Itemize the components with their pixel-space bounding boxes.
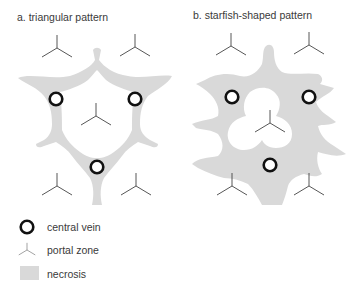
portal-zone-icon: [42, 173, 72, 195]
legend-necrosis-swatch: [20, 266, 39, 280]
central-vein-icon: [91, 161, 104, 174]
central-vein-icon: [50, 93, 63, 106]
portal-zone-icon: [42, 35, 72, 57]
portal-zone-icon: [120, 34, 150, 56]
legend-label-central-vein: central vein: [47, 221, 101, 233]
portal-zone-icon: [294, 173, 324, 195]
central-vein-icon: [264, 159, 277, 172]
portal-zone-icon: [294, 32, 324, 54]
portal-zone-icon: [121, 173, 151, 195]
panel-b-necrosis: [192, 45, 346, 205]
portal-zone-icon: [81, 103, 111, 125]
legend-portal-zone-icon: [19, 243, 36, 255]
legend-label-portal-zone: portal zone: [47, 244, 99, 256]
panel-a-necrosis: [18, 48, 172, 205]
legend-label-necrosis: necrosis: [47, 268, 86, 280]
legend-central-vein-icon: [21, 221, 34, 234]
central-vein-icon: [226, 91, 239, 104]
portal-zone-icon: [216, 33, 246, 55]
legend: [19, 221, 39, 280]
central-vein-icon: [129, 93, 142, 106]
central-vein-icon: [303, 91, 316, 104]
